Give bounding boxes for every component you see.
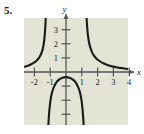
y-tick-label-2: 2: [54, 39, 58, 49]
x-tick-label-3: 3: [111, 77, 115, 87]
y-axis-arrow: [63, 14, 68, 19]
x-tick-label-2: 2: [95, 77, 99, 87]
x-axis-label: x: [136, 67, 141, 77]
y-tick-label-1: 1: [54, 53, 58, 63]
coordinate-plane-svg: -2-11234123 y x: [0, 0, 144, 134]
y-tick-label-3: 3: [54, 25, 58, 35]
y-axis-label: y: [62, 4, 67, 14]
graph-plot-area: -2-11234123 y x: [0, 0, 144, 134]
x-tick-label--1: -1: [47, 77, 54, 87]
x-tick-label--2: -2: [31, 77, 38, 87]
math-figure: 5. -2-11234123 y x: [0, 0, 144, 134]
x-tick-label-4: 4: [127, 77, 132, 87]
x-tick-label-1: 1: [80, 77, 84, 87]
